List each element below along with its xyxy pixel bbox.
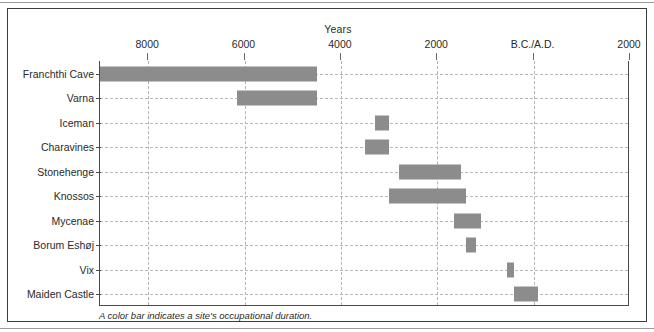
x-axis-tick <box>340 53 341 60</box>
duration-bar <box>466 238 476 253</box>
duration-bar <box>454 213 481 228</box>
figure-bottom-rule <box>0 328 654 329</box>
category-label-maiden-castle: Maiden Castle <box>27 288 94 300</box>
y-axis-tick <box>96 98 101 99</box>
duration-bar <box>389 189 466 204</box>
category-label-franchthi-cave: Franchthi Cave <box>23 68 94 80</box>
row-gridline <box>100 172 628 173</box>
y-axis-tick <box>96 147 101 148</box>
category-label-charavines: Charavines <box>41 141 94 153</box>
chart-title: Years <box>0 23 654 35</box>
figure-top-rule <box>0 2 654 3</box>
y-axis-tick <box>96 270 101 271</box>
x-axis-tick-label: 8000 <box>135 38 158 50</box>
row-gridline <box>100 147 628 148</box>
x-axis-tick-label: B.C./A.D. <box>511 38 555 50</box>
duration-bar <box>237 91 317 106</box>
x-axis-tick <box>533 53 534 60</box>
category-label-varna: Varna <box>67 92 94 104</box>
category-label-vix: Vix <box>80 264 94 276</box>
category-label-knossos: Knossos <box>54 190 94 202</box>
row-gridline <box>100 245 628 246</box>
x-axis-tick-label: 2000 <box>425 38 448 50</box>
y-axis-tick <box>96 245 101 246</box>
chart-caption: A color bar indicates a site's occupatio… <box>99 310 312 321</box>
y-axis-tick <box>96 221 101 222</box>
x-axis-tick-label: 2000 <box>617 38 640 50</box>
chart-title-text: Years <box>324 23 351 35</box>
x-axis-tick-label: 4000 <box>328 38 351 50</box>
category-label-mycenae: Mycenae <box>51 215 94 227</box>
plot-area <box>99 61 629 306</box>
y-axis-tick <box>96 294 101 295</box>
row-gridline <box>100 98 628 99</box>
row-gridline <box>100 294 628 295</box>
row-gridline <box>100 270 628 271</box>
category-label-borum-esh-j: Borum Eshøj <box>33 239 94 251</box>
y-axis-tick <box>96 196 101 197</box>
x-axis-tick <box>244 53 245 60</box>
duration-bar <box>100 66 317 81</box>
category-label-iceman: Iceman <box>60 117 94 129</box>
x-axis-tick-label: 6000 <box>232 38 255 50</box>
duration-bar <box>399 164 462 179</box>
duration-bar <box>375 115 389 130</box>
category-label-stonehenge: Stonehenge <box>37 166 94 178</box>
row-gridline <box>100 221 628 222</box>
duration-bar <box>365 140 389 155</box>
y-axis-tick <box>96 172 101 173</box>
timeline-chart-figure: Years 8000600040002000B.C./A.D.2000 Fran… <box>0 0 654 332</box>
row-gridline <box>100 196 628 197</box>
x-axis-tick <box>436 53 437 60</box>
duration-bar <box>514 287 538 302</box>
row-gridline <box>100 123 628 124</box>
duration-bar <box>507 262 514 277</box>
x-axis-tick <box>147 53 148 60</box>
y-axis-tick <box>96 123 101 124</box>
x-axis-tick <box>629 53 630 60</box>
